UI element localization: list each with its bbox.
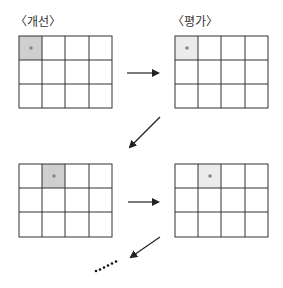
improve-grid-1	[19, 36, 112, 108]
evaluate-grid-1	[175, 36, 268, 108]
diagonal-arrow-icon	[130, 117, 160, 147]
policy-iteration-diagram	[0, 0, 283, 288]
improve-grid-2	[19, 164, 112, 237]
evaluate-grid-2	[175, 164, 268, 237]
continuation-dots-icon	[95, 260, 118, 272]
diagonal-arrow-icon	[131, 237, 160, 257]
